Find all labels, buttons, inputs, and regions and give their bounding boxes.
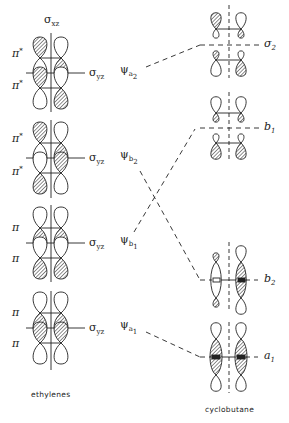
yz-subscript: yz: [97, 243, 105, 251]
level-b2-label: b2: [264, 273, 276, 287]
pi-top-label-3: π: [12, 222, 19, 233]
level-subscript: 1: [271, 127, 275, 135]
correlation-lines: [134, 45, 200, 357]
sigma-yz-label-1: σyz: [89, 67, 104, 81]
sigma-symbol: σ: [89, 321, 97, 334]
psi-subsubscript: 2: [133, 158, 137, 166]
sigma-symbol: σ: [89, 66, 97, 79]
cyclobutane-caption: cyclobutane: [205, 406, 254, 414]
sigma-symbol: σ: [44, 13, 52, 26]
ethylenes-caption: ethylenes: [31, 391, 70, 399]
psi-symbol: ψ: [120, 318, 129, 331]
psi-a1-label: ψa1: [120, 319, 137, 336]
psi-symbol: ψ: [120, 148, 129, 161]
pi-symbol: π: [12, 221, 19, 234]
pi-symbol: π: [12, 337, 19, 350]
yz-subscript: yz: [97, 328, 105, 336]
level-symbol: b: [264, 120, 271, 133]
pi-bottom-label-3: π: [12, 253, 19, 264]
psi-b2-label: ψb2: [120, 149, 138, 166]
level-symbol: b: [264, 272, 271, 285]
sigma-symbol: σ: [89, 151, 97, 164]
mirror-plane-xz-label: σxz: [44, 14, 59, 28]
psi-subsubscript: 1: [133, 328, 137, 336]
star-sup: *: [19, 165, 23, 173]
pi-bottom-label-4: π: [12, 338, 19, 349]
psi-symbol: ψ: [120, 233, 129, 246]
level-symbol: σ: [264, 37, 272, 50]
pi-star-top-label-1: π*: [12, 48, 23, 59]
level-subscript: 2: [272, 44, 276, 52]
psi-b1-label: ψb1: [120, 234, 138, 251]
orbital-correlation-diagram: [0, 0, 289, 423]
level-a1-label: a1: [264, 350, 275, 364]
pi-symbol: π: [12, 252, 19, 265]
psi-subsubscript: 1: [133, 243, 137, 251]
sigma-symbol: σ: [89, 236, 97, 249]
pi-star-bottom-label-1: π*: [12, 80, 23, 91]
star-sup: *: [19, 132, 23, 140]
level-sigma2-label: σ2: [264, 38, 276, 52]
xz-subscript: xz: [52, 20, 60, 28]
sigma-yz-label-2: σyz: [89, 152, 104, 166]
level-subscript: 2: [271, 279, 275, 287]
pi-star-bottom-label-2: π*: [12, 166, 23, 177]
psi-a2-label: ψa2: [120, 64, 137, 81]
sigma-yz-label-3: σyz: [89, 237, 104, 251]
yz-subscript: yz: [97, 158, 105, 166]
level-subscript: 1: [271, 356, 275, 364]
pi-top-label-4: π: [12, 307, 19, 318]
psi-symbol: ψ: [120, 63, 129, 76]
pi-symbol: π: [12, 306, 19, 319]
pi-star-top-label-2: π*: [12, 133, 23, 144]
star-sup: *: [19, 79, 23, 87]
sigma-yz-label-4: σyz: [89, 322, 104, 336]
psi-subsubscript: 2: [133, 73, 137, 81]
level-b1-label: b1: [264, 121, 276, 135]
star-sup: *: [19, 47, 23, 55]
yz-subscript: yz: [97, 73, 105, 81]
